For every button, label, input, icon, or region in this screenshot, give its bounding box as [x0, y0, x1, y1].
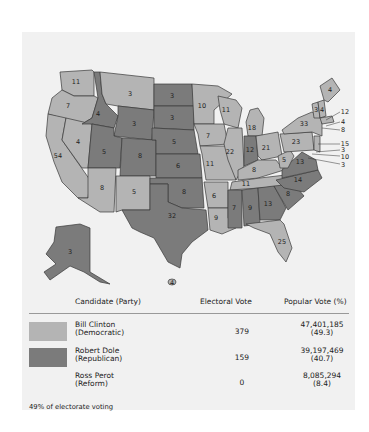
electoral-vote: 159 — [222, 354, 262, 362]
label-ma: 12 — [341, 108, 349, 116]
label-ak: 3 — [68, 248, 72, 256]
label-mi: 18 — [248, 124, 256, 132]
label-md: 10 — [341, 153, 349, 161]
label-pa: 23 — [292, 138, 300, 146]
label-ar: 6 — [212, 192, 216, 200]
popular-percent: (40.7) — [292, 355, 352, 363]
label-ne: 5 — [172, 138, 176, 146]
table-row-dole: Robert Dole (Republican) 159 39,197,469 … — [22, 346, 355, 370]
label-wi: 11 — [222, 106, 230, 114]
label-nc: 14 — [294, 176, 302, 184]
popular-percent: (8.4) — [292, 380, 352, 388]
table-row-perot: Ross Perot (Reform) 0 8,085,294 (8.4) — [22, 371, 355, 395]
label-tx: 32 — [168, 212, 176, 220]
label-wv: 5 — [282, 156, 286, 164]
candidate-cell: Bill Clinton (Democratic) — [75, 321, 124, 337]
popular-cell: 8,085,294 (8.4) — [292, 372, 352, 388]
label-or: 7 — [66, 102, 70, 110]
label-ca: 54 — [54, 152, 62, 160]
candidate-party: (Democratic) — [75, 329, 124, 337]
state-ak — [44, 224, 110, 284]
label-vt: 3 — [314, 106, 318, 114]
label-wa: 11 — [72, 78, 80, 86]
label-nh: 4 — [320, 106, 324, 114]
header-electoral: Electoral Vote — [200, 297, 252, 306]
label-va: 13 — [296, 158, 304, 166]
electoral-vote: 379 — [222, 328, 262, 336]
label-sc: 8 — [286, 190, 290, 198]
table-row-clinton: Bill Clinton (Democratic) 379 47,401,185… — [22, 320, 355, 344]
democratic-swatch — [29, 322, 67, 341]
header-popular: Popular Vote (%) — [284, 297, 347, 306]
label-dc: 3 — [341, 161, 345, 169]
label-nm: 5 — [132, 188, 136, 196]
header-candidate: Candidate (Party) — [75, 297, 141, 306]
label-nd: 3 — [170, 92, 174, 100]
label-ct: 8 — [341, 126, 345, 134]
us-electoral-map: 11 7 54 4 4 3 3 5 8 8 5 3 3 5 6 8 32 10 … — [22, 32, 355, 292]
label-ok: 8 — [182, 188, 186, 196]
label-ga: 13 — [264, 200, 272, 208]
candidate-cell: Robert Dole (Republican) — [75, 347, 122, 363]
label-tn: 11 — [242, 180, 250, 188]
popular-cell: 39,197,469 (40.7) — [292, 347, 352, 363]
label-az: 8 — [100, 184, 104, 192]
header-divider — [29, 313, 349, 314]
candidate-party: (Republican) — [75, 355, 122, 363]
label-in: 12 — [246, 146, 254, 154]
label-mo: 11 — [206, 160, 214, 168]
label-mn: 10 — [198, 102, 206, 110]
turnout-note: 49% of electorate voting — [29, 403, 113, 411]
label-ms: 7 — [232, 204, 236, 212]
label-ny: 33 — [300, 120, 308, 128]
label-al: 9 — [248, 204, 252, 212]
label-hi: 4 — [170, 279, 174, 287]
state-ia — [194, 124, 228, 146]
label-wy: 3 — [132, 120, 136, 128]
label-sd: 3 — [170, 114, 174, 122]
label-la: 9 — [214, 214, 218, 222]
republican-swatch — [29, 348, 67, 367]
table-header: Candidate (Party) Electoral Vote Popular… — [22, 297, 355, 311]
label-ut: 5 — [102, 148, 106, 156]
label-ri: 4 — [341, 118, 345, 126]
label-me: 4 — [328, 86, 332, 94]
label-oh: 21 — [262, 144, 270, 152]
label-co: 8 — [138, 152, 142, 160]
label-nv: 4 — [76, 138, 80, 146]
figure-panel: 11 7 54 4 4 3 3 5 8 8 5 3 3 5 6 8 32 10 … — [22, 32, 355, 410]
label-mt: 3 — [128, 90, 132, 98]
candidate-party: (Reform) — [75, 380, 114, 388]
label-ky: 8 — [252, 166, 256, 174]
label-fl: 25 — [278, 238, 286, 246]
popular-percent: (49.3) — [292, 329, 352, 337]
label-il: 22 — [226, 148, 234, 156]
popular-cell: 47,401,185 (49.3) — [292, 321, 352, 337]
label-id: 4 — [96, 110, 100, 118]
electoral-vote: 0 — [222, 379, 262, 387]
candidate-cell: Ross Perot (Reform) — [75, 372, 114, 388]
map-svg: 11 7 54 4 4 3 3 5 8 8 5 3 3 5 6 8 32 10 … — [22, 32, 355, 292]
label-ia: 7 — [206, 132, 210, 140]
label-ks: 6 — [176, 162, 180, 170]
